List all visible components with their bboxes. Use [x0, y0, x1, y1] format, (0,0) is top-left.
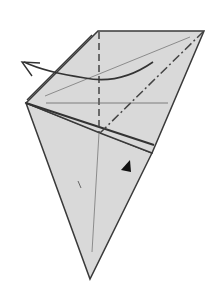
- origami-diagram: [0, 0, 221, 286]
- arrowhead-icon: [22, 62, 40, 76]
